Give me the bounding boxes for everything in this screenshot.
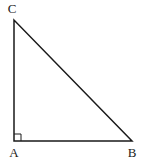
triangle-abc bbox=[14, 20, 132, 141]
triangle-figure: A B C bbox=[0, 0, 141, 164]
diagram-canvas: A B C bbox=[0, 0, 141, 164]
vertex-label-b: B bbox=[128, 145, 137, 160]
vertex-label-c: C bbox=[8, 1, 17, 16]
right-angle-marker bbox=[14, 134, 21, 141]
vertex-label-a: A bbox=[9, 145, 19, 160]
